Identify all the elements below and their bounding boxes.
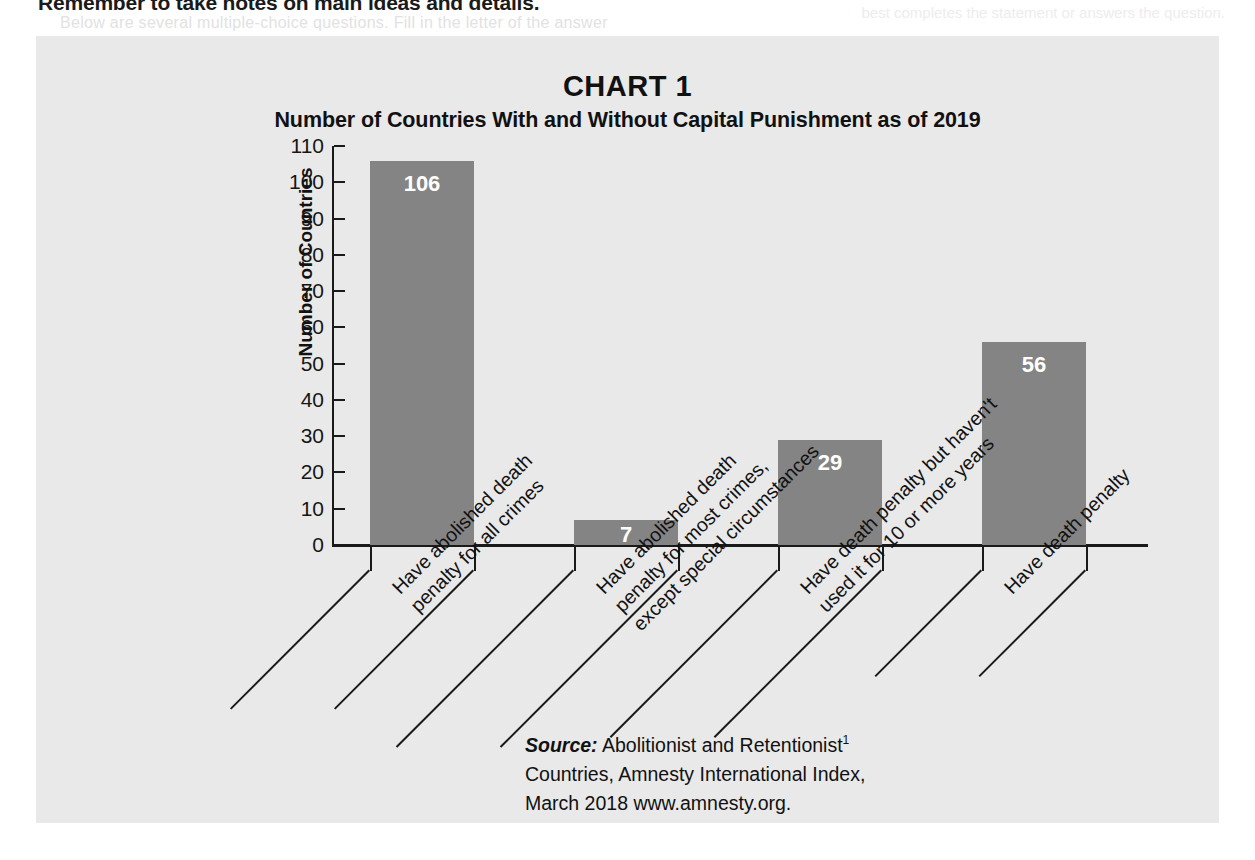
category-leader-diagonal bbox=[875, 570, 982, 677]
y-axis-tick bbox=[334, 145, 345, 147]
y-axis-tick-label: 70 bbox=[262, 280, 324, 301]
y-axis-tick bbox=[334, 399, 345, 401]
y-axis-tick-label: 0 bbox=[262, 534, 324, 555]
y-axis-tick-label: 100 bbox=[262, 171, 324, 192]
category-leader-diagonal bbox=[230, 570, 370, 710]
source-line2: Countries, Amnesty International Index, bbox=[525, 760, 865, 789]
source-line1: Abolitionist and Retentionist bbox=[602, 734, 843, 756]
y-axis-tick bbox=[334, 326, 345, 328]
y-axis-tick bbox=[334, 508, 345, 510]
bar-value-label: 106 bbox=[370, 171, 474, 197]
category-leader-diagonal bbox=[714, 570, 882, 738]
y-axis-line bbox=[332, 146, 334, 546]
chart-panel: CHART 1 Number of Countries With and Wit… bbox=[36, 36, 1219, 823]
y-axis-tick-label: 30 bbox=[262, 425, 324, 446]
page-ghost-text: Below are several multiple-choice questi… bbox=[60, 14, 608, 32]
y-axis-tick bbox=[334, 435, 345, 437]
y-axis-tick-label: 110 bbox=[262, 135, 324, 156]
category-leader-stem bbox=[574, 547, 576, 571]
category-leader-diagonal bbox=[979, 570, 1086, 677]
y-axis-tick bbox=[334, 471, 345, 473]
y-axis-tick bbox=[334, 254, 345, 256]
y-axis-tick-label: 80 bbox=[262, 244, 324, 265]
category-leader-stem bbox=[1086, 547, 1088, 571]
category-leader-stem bbox=[982, 547, 984, 571]
bar-value-label: 56 bbox=[982, 352, 1086, 378]
source-label: Source: bbox=[525, 734, 598, 756]
y-axis-tick bbox=[334, 363, 345, 365]
y-axis-tick-label: 20 bbox=[262, 461, 324, 482]
y-axis-tick-label: 90 bbox=[262, 208, 324, 229]
y-axis-tick-label: 50 bbox=[262, 353, 324, 374]
bar: 106 bbox=[370, 161, 474, 545]
plot-area: Number of Countries 11010090807060504030… bbox=[36, 36, 1219, 823]
y-axis-tick bbox=[334, 218, 345, 220]
category-leader-stem bbox=[778, 547, 780, 571]
y-axis-tick-label: 60 bbox=[262, 316, 324, 337]
y-axis-tick-label: 10 bbox=[262, 498, 324, 519]
source-footnote-marker: 1 bbox=[843, 733, 850, 747]
category-leader-stem bbox=[370, 547, 372, 571]
source-note: Source: Abolitionist and Retentionist1 C… bbox=[525, 726, 865, 818]
page-ghost-text-right: best completes the statement or answers … bbox=[861, 2, 1225, 24]
source-line3: March 2018 www.amnesty.org. bbox=[525, 789, 865, 818]
y-axis-tick bbox=[334, 290, 345, 292]
page-header-line: Remember to take notes on main ideas and… bbox=[38, 0, 539, 15]
y-axis-tick bbox=[334, 181, 345, 183]
source-note-line1: Source: Abolitionist and Retentionist1 bbox=[525, 726, 865, 760]
y-axis-tick-label: 40 bbox=[262, 389, 324, 410]
